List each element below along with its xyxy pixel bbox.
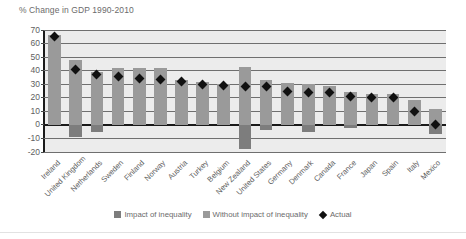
y-axis-tick-label: 30: [0, 79, 40, 89]
y-axis-tick-label: 60: [0, 38, 40, 48]
bar-group: [48, 30, 61, 152]
bar-segment-without-impact: [239, 67, 252, 125]
bar-segment-without-impact: [175, 80, 188, 125]
legend-label: Impact of inequality: [124, 210, 191, 219]
bar-segment-without-impact: [91, 72, 104, 125]
y-axis-tick-label: 0: [0, 119, 40, 129]
bar-group: [196, 30, 209, 152]
y-axis-tick-label: 70: [0, 25, 40, 35]
bar-segment-without-impact: [217, 84, 230, 125]
legend-label: Actual: [330, 210, 352, 219]
y-axis-tick-label: -10: [0, 133, 40, 143]
chart-legend: Impact of inequalityWithout impact of in…: [0, 210, 466, 219]
legend-swatch-icon: [203, 211, 210, 218]
y-axis-tick-label: 50: [0, 52, 40, 62]
gdp-change-chart: % Change in GDP 1990-2010 70605040302010…: [0, 0, 466, 239]
bar-segment-without-impact: [48, 35, 61, 124]
y-axis-tick-label: 20: [0, 92, 40, 102]
bar-segment-impact-of-inequality: [239, 125, 252, 149]
bar-group: [387, 30, 400, 152]
bar-segment-impact-of-inequality: [260, 125, 273, 130]
bar-segment-impact-of-inequality: [91, 125, 104, 132]
bar-group: [69, 30, 82, 152]
y-axis-tick-label: 40: [0, 65, 40, 75]
bar-group: [133, 30, 146, 152]
bars-layer: [44, 30, 446, 152]
bar-group: [429, 30, 442, 152]
bar-group: [91, 30, 104, 152]
bar-segment-impact-of-inequality: [302, 125, 315, 132]
bar-group: [112, 30, 125, 152]
legend-label: Without impact of inequality: [213, 210, 308, 219]
legend-swatch-icon: [114, 211, 121, 218]
legend-diamond-icon: [319, 210, 327, 218]
bar-group: [175, 30, 188, 152]
y-axis-tick-label: 10: [0, 106, 40, 116]
legend-item: Impact of inequality: [114, 210, 191, 219]
bar-group: [154, 30, 167, 152]
y-axis-tick-label: -20: [0, 147, 40, 157]
bar-group: [217, 30, 230, 152]
bottom-divider: [0, 232, 466, 233]
bar-segment-impact-of-inequality: [344, 125, 357, 128]
legend-item: Actual: [319, 210, 352, 219]
legend-item: Without impact of inequality: [203, 210, 308, 219]
bar-group: [408, 30, 421, 152]
bar-segment-impact-of-inequality: [69, 125, 82, 137]
bar-group: [366, 30, 379, 152]
